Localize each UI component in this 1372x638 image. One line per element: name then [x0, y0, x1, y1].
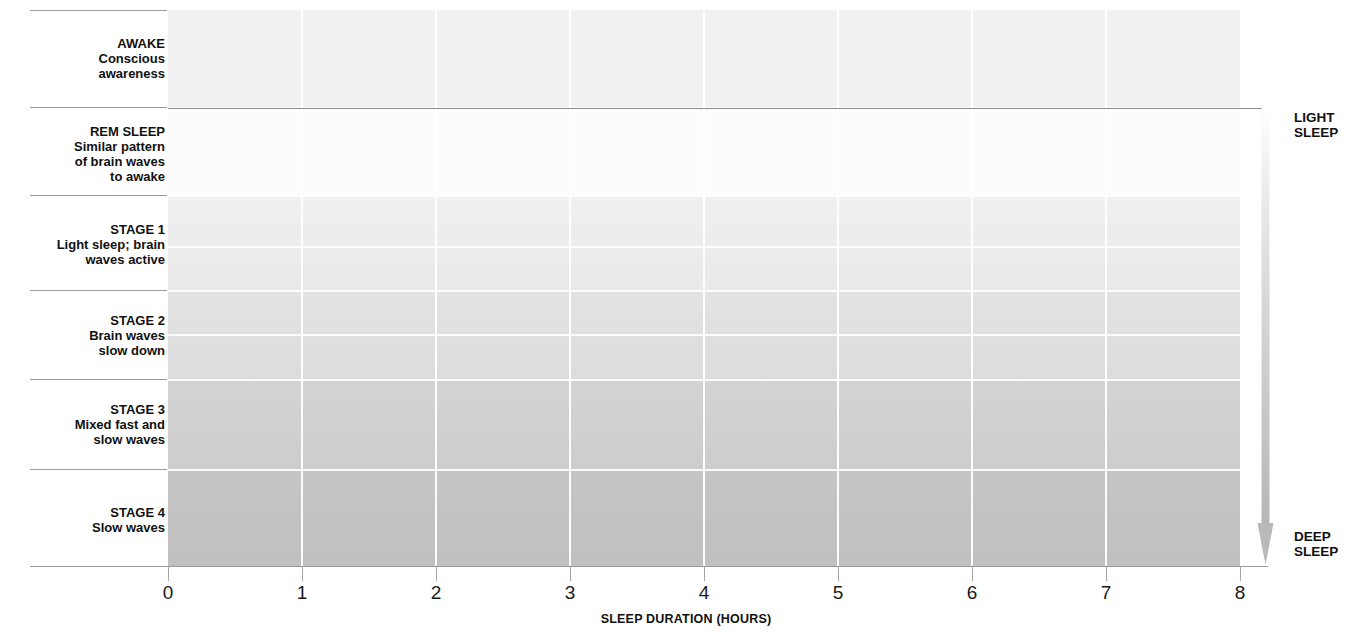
- stage-desc-s4-1: Slow waves: [30, 520, 165, 535]
- stage-desc-s1-1: Light sleep; brain: [30, 237, 165, 252]
- stage-desc-s2-1: Brain waves: [30, 328, 165, 343]
- stage-label-awake: AWAKE Conscious awareness: [30, 36, 165, 81]
- deep-sleep-label: DEEP SLEEP: [1294, 529, 1338, 559]
- stage-desc-s2-2: slow down: [30, 343, 165, 358]
- stage-divider-top: [30, 10, 167, 11]
- light-sleep-line2: SLEEP: [1294, 125, 1338, 140]
- stage-label-s1: STAGE 1 Light sleep; brain waves active: [30, 222, 165, 267]
- x-tick-label-2: 2: [416, 582, 456, 604]
- gridline-v-4: [703, 10, 705, 566]
- sleep-cycle-chart: AWAKE Conscious awareness REM SLEEP Simi…: [0, 0, 1372, 638]
- x-axis-title: SLEEP DURATION (HOURS): [0, 612, 1372, 626]
- stage-desc-awake-2: awareness: [30, 66, 165, 81]
- x-tick-label-3: 3: [550, 582, 590, 604]
- x-tick-label-0: 0: [148, 582, 188, 604]
- plot-area: [168, 10, 1240, 566]
- x-tick-label-4: 4: [684, 582, 724, 604]
- x-tick-label-5: 5: [818, 582, 858, 604]
- x-tick-6: [972, 567, 973, 581]
- x-tick-label-8: 8: [1220, 582, 1260, 604]
- x-tick-label-1: 1: [282, 582, 322, 604]
- stage-title-awake: AWAKE: [30, 36, 165, 51]
- deep-sleep-line2: SLEEP: [1294, 544, 1338, 559]
- stage-label-rem: REM SLEEP Similar pattern of brain waves…: [30, 124, 165, 184]
- x-tick-1: [302, 567, 303, 581]
- stage-divider-rem: [30, 107, 167, 108]
- gridline-v-1: [301, 10, 303, 566]
- gridline-v-6: [971, 10, 973, 566]
- stage-label-s2: STAGE 2 Brain waves slow down: [30, 313, 165, 358]
- stage-desc-rem-2: of brain waves: [30, 154, 165, 169]
- x-tick-8: [1240, 567, 1241, 581]
- gridline-v-5: [837, 10, 839, 566]
- x-tick-4: [704, 567, 705, 581]
- x-tick-label-7: 7: [1086, 582, 1126, 604]
- stage-title-s4: STAGE 4: [30, 505, 165, 520]
- stage-divider-s1: [30, 195, 167, 196]
- awake-rem-separator: [168, 108, 1268, 109]
- gridline-v-2: [435, 10, 437, 566]
- stage-desc-s3-1: Mixed fast and: [30, 417, 165, 432]
- x-tick-5: [838, 567, 839, 581]
- x-axis-baseline: [148, 566, 1268, 567]
- stage-title-rem: REM SLEEP: [30, 124, 165, 139]
- deep-sleep-line1: DEEP: [1294, 529, 1331, 544]
- depth-gradient-arrow-icon: [1257, 108, 1274, 568]
- x-tick-0: [168, 567, 169, 581]
- stage-desc-s3-2: slow waves: [30, 432, 165, 447]
- stage-desc-awake-1: Conscious: [30, 51, 165, 66]
- light-sleep-line1: LIGHT: [1294, 110, 1335, 125]
- stage-title-s2: STAGE 2: [30, 313, 165, 328]
- stage-divider-bottom: [30, 566, 167, 567]
- stage-label-s4: STAGE 4 Slow waves: [30, 505, 165, 535]
- stage-divider-s2: [30, 290, 167, 291]
- stage-divider-s3: [30, 379, 167, 380]
- x-tick-label-6: 6: [952, 582, 992, 604]
- stage-desc-s1-2: waves active: [30, 252, 165, 267]
- gridline-v-7: [1105, 10, 1107, 566]
- light-sleep-label: LIGHT SLEEP: [1294, 110, 1338, 140]
- stage-title-s1: STAGE 1: [30, 222, 165, 237]
- stage-title-s3: STAGE 3: [30, 402, 165, 417]
- gridline-v-3: [569, 10, 571, 566]
- stage-desc-rem-3: to awake: [30, 169, 165, 184]
- x-tick-3: [570, 567, 571, 581]
- stage-divider-s4: [30, 469, 167, 470]
- stage-label-s3: STAGE 3 Mixed fast and slow waves: [30, 402, 165, 447]
- x-tick-7: [1106, 567, 1107, 581]
- x-tick-2: [436, 567, 437, 581]
- stage-desc-rem-1: Similar pattern: [30, 139, 165, 154]
